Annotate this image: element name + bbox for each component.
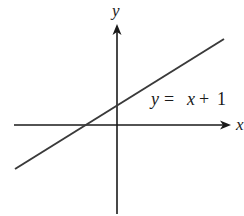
equation-lhs: y [149,89,159,109]
equation-equals: = [164,89,174,109]
x-axis [14,121,231,130]
y-axis-label: y [110,1,120,20]
x-axis-label: x [235,115,244,134]
equation-const: 1 [217,89,226,109]
equation-label: y = x + 1 [149,89,226,109]
coordinate-plane: x y y = x + 1 [0,0,244,216]
y-axis [113,24,122,214]
equation-var: x [186,89,195,109]
equation-plus: + [199,89,209,109]
